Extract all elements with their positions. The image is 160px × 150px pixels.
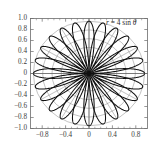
y-tick-label: 0.8 (0, 26, 27, 33)
y-tick-label: −0.6 (0, 103, 27, 110)
y-tick-label: 0.2 (0, 59, 27, 66)
y-tick-label: −0.2 (0, 81, 27, 88)
x-tick-label: −0.4 (54, 132, 78, 139)
y-tick-label: 0 (0, 70, 27, 77)
x-tick-label: 0.8 (124, 132, 148, 139)
curve-equation-annotation: r = 4 sin θ (106, 19, 136, 27)
y-tick-label: 0.4 (0, 48, 27, 55)
y-tick-label: 0.6 (0, 37, 27, 44)
y-tick-label: −0.8 (0, 114, 27, 121)
y-tick-label: −1.0 (0, 125, 27, 132)
equation-theta: θ (133, 18, 137, 27)
x-tick-label: 0 (77, 132, 101, 139)
x-tick-label: −0.8 (30, 132, 54, 139)
x-tick-label: 0.4 (100, 132, 124, 139)
y-tick-label: −0.4 (0, 92, 27, 99)
y-tick-label: 1.0 (0, 15, 27, 22)
polar-rose-chart: r = 4 sin θ 1.00.80.60.40.20−0.2−0.4−0.6… (0, 0, 160, 150)
equation-body: = 4 sin (109, 18, 133, 27)
